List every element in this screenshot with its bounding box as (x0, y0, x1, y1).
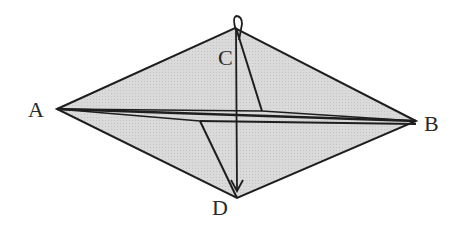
label-a: A (28, 97, 44, 122)
label-c: C (218, 45, 233, 70)
label-d: D (212, 195, 228, 220)
folded-rhombus-diagram: A B C D (0, 0, 452, 226)
label-b: B (424, 111, 439, 136)
